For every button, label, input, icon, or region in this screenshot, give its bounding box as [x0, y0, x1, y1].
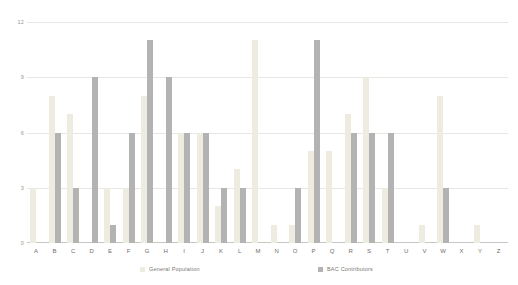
legend-item-bac-contributors[interactable]: BAC Contributors — [318, 266, 373, 272]
bar-group — [453, 22, 472, 243]
bar-group — [471, 22, 490, 243]
bar[interactable] — [110, 225, 116, 243]
x-axis-tick-label: N — [268, 245, 287, 257]
x-axis-tick-label: Q — [323, 245, 342, 257]
bar-group — [83, 22, 102, 243]
bar[interactable] — [30, 188, 36, 243]
chart-legend: General Population BAC Contributors — [27, 266, 508, 278]
bar-series-container — [27, 22, 508, 243]
bar-group — [231, 22, 250, 243]
x-axis-tick-label: I — [175, 245, 194, 257]
bar[interactable] — [326, 151, 332, 243]
bar-group — [101, 22, 120, 243]
bar-group — [157, 22, 176, 243]
bar-group — [46, 22, 65, 243]
bar[interactable] — [271, 225, 277, 243]
bar[interactable] — [388, 133, 394, 244]
bar[interactable] — [55, 133, 61, 244]
bar[interactable] — [369, 133, 375, 244]
bar[interactable] — [351, 133, 357, 244]
x-axis-labels: ABCDEFGHIJKLMNOPQRSTUVWXYZ — [27, 245, 508, 257]
x-axis-tick-label: G — [138, 245, 157, 257]
y-axis-tick-label: 0 — [4, 240, 24, 246]
x-axis-tick-label: K — [212, 245, 231, 257]
x-axis-tick-label: A — [27, 245, 46, 257]
bar[interactable] — [203, 133, 209, 244]
x-axis-tick-label: D — [83, 245, 102, 257]
legend-label: General Population — [149, 266, 200, 272]
bar-group — [416, 22, 435, 243]
x-axis-tick-label: W — [434, 245, 453, 257]
x-axis-tick-label: L — [231, 245, 250, 257]
x-axis-tick-label: V — [416, 245, 435, 257]
bar-chart: 036912 ABCDEFGHIJKLMNOPQRSTUVWXYZ Genera… — [0, 0, 518, 285]
bar-group — [194, 22, 213, 243]
bar-group — [434, 22, 453, 243]
bar[interactable] — [419, 225, 425, 243]
x-axis-tick-label: Y — [471, 245, 490, 257]
bar-group — [342, 22, 361, 243]
bar-group — [305, 22, 324, 243]
bar[interactable] — [443, 188, 449, 243]
bar-group — [212, 22, 231, 243]
legend-item-general-population[interactable]: General Population — [140, 266, 200, 272]
legend-label: BAC Contributors — [327, 266, 373, 272]
bar-group — [249, 22, 268, 243]
x-axis-tick-label: B — [46, 245, 65, 257]
y-axis-tick-label: 3 — [4, 185, 24, 191]
bar-group — [379, 22, 398, 243]
x-axis-tick-label: F — [120, 245, 139, 257]
bar-group — [360, 22, 379, 243]
bar-group — [64, 22, 83, 243]
bar-group — [138, 22, 157, 243]
bar[interactable] — [314, 40, 320, 243]
bar[interactable] — [129, 133, 135, 244]
bar-group — [490, 22, 509, 243]
x-axis-tick-label: R — [342, 245, 361, 257]
bar[interactable] — [221, 188, 227, 243]
bar[interactable] — [166, 77, 172, 243]
x-axis-tick-label: P — [305, 245, 324, 257]
x-axis-tick-label: E — [101, 245, 120, 257]
legend-swatch-icon — [318, 267, 323, 272]
x-axis-tick-label: Z — [490, 245, 509, 257]
legend-swatch-icon — [140, 267, 145, 272]
bar[interactable] — [474, 225, 480, 243]
x-axis-tick-label: C — [64, 245, 83, 257]
bar[interactable] — [252, 40, 258, 243]
x-axis-tick-label: O — [286, 245, 305, 257]
y-axis-tick-label: 9 — [4, 74, 24, 80]
x-axis-tick-label: H — [157, 245, 176, 257]
bar-group — [120, 22, 139, 243]
y-axis-tick-label: 6 — [4, 130, 24, 136]
bar-group — [397, 22, 416, 243]
bar[interactable] — [240, 188, 246, 243]
bar[interactable] — [92, 77, 98, 243]
bar[interactable] — [73, 188, 79, 243]
bar[interactable] — [184, 133, 190, 244]
bar-group — [175, 22, 194, 243]
x-axis-tick-label: U — [397, 245, 416, 257]
bar-group — [286, 22, 305, 243]
bar[interactable] — [295, 188, 301, 243]
bar-group — [27, 22, 46, 243]
bar-group — [268, 22, 287, 243]
x-axis-tick-label: M — [249, 245, 268, 257]
y-axis-tick-label: 12 — [4, 19, 24, 25]
x-axis-tick-label: X — [453, 245, 472, 257]
plot-area — [27, 22, 508, 243]
x-axis-tick-label: S — [360, 245, 379, 257]
x-axis-tick-label: T — [379, 245, 398, 257]
bar[interactable] — [147, 40, 153, 243]
x-axis-tick-label: J — [194, 245, 213, 257]
bar-group — [323, 22, 342, 243]
